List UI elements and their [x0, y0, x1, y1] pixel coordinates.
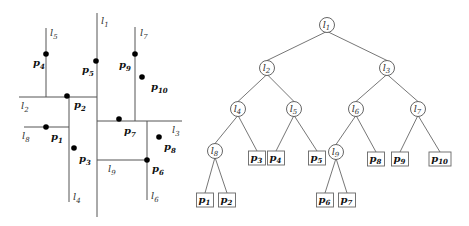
point-p8: [156, 134, 162, 140]
tree-edge-l5-p4: [276, 115, 294, 151]
point-label-p5: p5: [82, 64, 94, 78]
point-label-p10: p10: [151, 81, 168, 95]
tree-edge-l8-p2: [215, 157, 227, 193]
point-p1: [43, 124, 49, 130]
point-label-p9: p9: [119, 59, 131, 73]
tree-edge-l2-l5: [267, 74, 294, 101]
tree-edge-l8-p1: [205, 157, 215, 193]
split-line-label-l8: l8: [22, 130, 30, 144]
tree-edge-l3-l7: [387, 74, 418, 101]
split-line-label-l4: l4: [73, 191, 81, 205]
plane-partition: l1l2l3l4l5l6l7l8l9p1p2p3p4p5p6p7p8p9p10: [19, 13, 182, 217]
split-line-label-l6: l6: [151, 190, 159, 204]
split-line-label-l9: l9: [108, 163, 116, 177]
tree-edge-l1-l3: [327, 31, 387, 60]
tree-edge-l2-l4: [238, 74, 267, 101]
kd-tree: l1l2l3l4l5l6l7l8l9p1p2p3p4p5p6p7p8p9p10: [197, 18, 452, 208]
tree-edge-l6-p8: [356, 115, 376, 152]
split-line-label-l7: l7: [140, 27, 148, 41]
point-p4: [43, 51, 49, 57]
point-p3: [71, 145, 77, 151]
point-p6: [144, 157, 150, 163]
point-label-p8: p8: [164, 141, 176, 155]
point-label-p3: p3: [79, 153, 91, 167]
split-line-label-l5: l5: [50, 27, 58, 41]
point-p10: [139, 74, 145, 80]
point-label-p7: p7: [124, 125, 136, 139]
tree-edge-l9-p6: [325, 158, 336, 193]
tree-edge-l1-l2: [267, 31, 327, 60]
tree-edge-l7-p9: [400, 115, 418, 152]
tree-edge-l9-p7: [336, 158, 347, 193]
point-label-p6: p6: [152, 163, 164, 177]
split-line-label-l1: l1: [101, 15, 109, 29]
tree-edge-l7-p10: [418, 115, 440, 152]
tree-edge-l4-l8: [215, 115, 238, 143]
point-p2: [64, 93, 70, 99]
tree-edge-l4-p3: [238, 115, 257, 151]
point-p5: [93, 58, 99, 64]
tree-edge-l5-p5: [294, 115, 317, 151]
point-label-p2: p2: [74, 99, 86, 113]
split-line-label-l3: l3: [172, 124, 180, 138]
kd-tree-figure: l1l2l3l4l5l6l7l8l9p1p2p3p4p5p6p7p8p9p10 …: [0, 0, 469, 226]
point-label-p1: p1: [51, 131, 63, 145]
point-p7: [116, 116, 122, 122]
tree-edge-l3-l6: [356, 74, 387, 101]
split-line-label-l2: l2: [21, 100, 29, 114]
point-p9: [132, 51, 138, 57]
tree-edge-l6-l9: [336, 115, 356, 144]
point-label-p4: p4: [33, 57, 45, 71]
